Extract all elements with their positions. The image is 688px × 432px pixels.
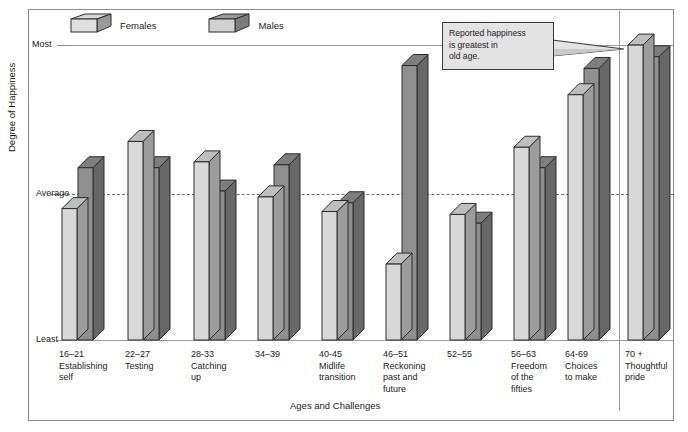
x-tick-group-8: 56–63Freedomof thefifties: [511, 349, 547, 395]
x-tick-group-9: 64-69Choicesto make: [565, 349, 598, 384]
x-tick-group-1: 16–21Establishingself: [59, 349, 108, 384]
x-tick-group-10-line-2: Thoughtful: [625, 361, 668, 373]
callout-box: Reported happiness is greatest in old ag…: [442, 22, 554, 70]
x-tick-group-8-line-4: fifties: [511, 384, 547, 396]
x-tick-group-5-line-1: 40-45: [319, 349, 356, 361]
x-tick-group-1-line-2: Establishing: [59, 361, 108, 373]
x-tick-group-3-line-1: 28-33: [191, 349, 227, 361]
x-tick-group-7: 52–55: [447, 349, 472, 361]
x-tick-group-3-line-2: Catching: [191, 361, 227, 373]
x-tick-group-1-line-1: 16–21: [59, 349, 108, 361]
x-tick-group-3: 28-33Catchingup: [191, 349, 227, 384]
x-tick-group-10: 70 +Thoughtfulpride: [625, 349, 668, 384]
x-tick-group-8-line-1: 56–63: [511, 349, 547, 361]
x-tick-group-10-line-3: pride: [625, 372, 668, 384]
chart-screenshot: Most Average Least Degree of Happiness A…: [0, 0, 688, 432]
x-tick-group-2: 22–27Testing: [125, 349, 154, 372]
x-tick-group-4: 34–39: [255, 349, 280, 361]
x-tick-group-1-line-3: self: [59, 372, 108, 384]
x-tick-group-5: 40-45Midlifetransition: [319, 349, 356, 384]
x-tick-group-8-line-2: Freedom: [511, 361, 547, 373]
x-tick-group-3-line-3: up: [191, 372, 227, 384]
x-tick-group-7-line-1: 52–55: [447, 349, 472, 361]
x-tick-group-6-line-4: future: [383, 384, 426, 396]
x-tick-group-6-line-1: 46–51: [383, 349, 426, 361]
x-tick-group-9-line-1: 64-69: [565, 349, 598, 361]
x-tick-group-6-line-2: Reckoning: [383, 361, 426, 373]
x-tick-group-4-line-1: 34–39: [255, 349, 280, 361]
callout-line-3: old age.: [449, 51, 547, 63]
x-tick-group-9-line-3: to make: [565, 372, 598, 384]
callout-line-1: Reported happiness: [449, 28, 547, 40]
x-tick-group-9-line-2: Choices: [565, 361, 598, 373]
x-tick-group-2-line-2: Testing: [125, 361, 154, 373]
x-tick-group-2-line-1: 22–27: [125, 349, 154, 361]
x-tick-group-6-line-3: past and: [383, 372, 426, 384]
x-tick-group-10-line-1: 70 +: [625, 349, 668, 361]
callout-line-2: is greatest in: [449, 40, 547, 52]
x-tick-group-8-line-3: of the: [511, 372, 547, 384]
x-tick-group-5-line-3: transition: [319, 372, 356, 384]
x-tick-group-6: 46–51Reckoningpast andfuture: [383, 349, 426, 395]
x-tick-group-5-line-2: Midlife: [319, 361, 356, 373]
